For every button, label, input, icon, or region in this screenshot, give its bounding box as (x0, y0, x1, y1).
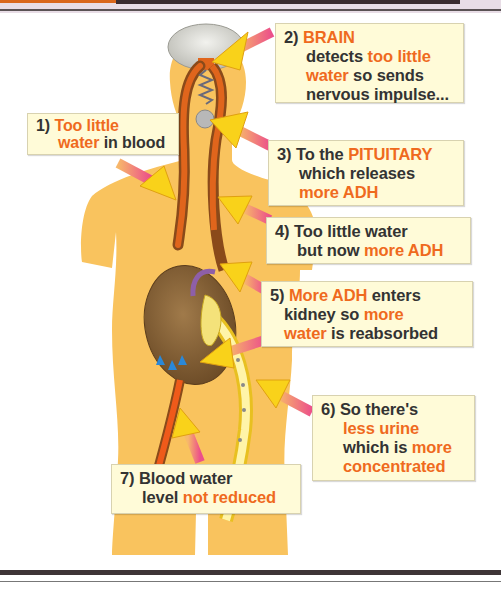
step-text: Too little water (294, 222, 408, 240)
highlight-text: BRAIN (303, 28, 355, 46)
step-text: level (142, 488, 183, 506)
highlight-text: More ADH (289, 286, 367, 304)
step-5-box: 5) More ADH enters kidney so more water … (261, 281, 473, 347)
highlight-text: Too little (54, 117, 118, 134)
step-text: so sends (349, 66, 424, 84)
step-number: 5) (270, 286, 284, 304)
step-text: but now (297, 241, 364, 259)
step-text: detects (306, 47, 368, 65)
step-1-box: 1) Too little water in blood (27, 113, 179, 155)
highlight-text: more ADH (299, 183, 378, 201)
highlight-text: more ADH (364, 241, 443, 259)
step-number: 1) (36, 117, 50, 134)
step-number: 2) (284, 28, 298, 46)
footer-rule-thin (0, 581, 501, 582)
step-text: enters (367, 286, 420, 304)
highlight-text: too little (368, 47, 431, 65)
highlight-text: water (58, 134, 99, 151)
highlight-text: water (284, 324, 327, 342)
step-3-box: 3) To the PITUITARY which releases more … (268, 140, 464, 206)
step-2-box: 2) BRAIN detects too little water so sen… (275, 23, 464, 103)
step-text: which releases (299, 164, 415, 182)
pituitary (196, 110, 214, 128)
footer-rule (0, 570, 501, 575)
step-text: So there's (340, 400, 418, 418)
step-number: 7) (120, 469, 134, 487)
step-number: 4) (275, 222, 289, 240)
highlight-text: more (364, 305, 404, 323)
step-text: To the (296, 145, 348, 163)
highlight-text: less urine (343, 419, 419, 437)
step-text: nervous impulse... (306, 85, 449, 103)
highlight-text: more (412, 438, 452, 456)
step-text: in blood (99, 134, 165, 151)
step-4-box: 4) Too little water but now more ADH (266, 217, 471, 264)
step-number: 3) (277, 145, 291, 163)
highlight-text: concentrated (343, 457, 445, 475)
step-6-box: 6) So there's less urine which is more c… (312, 395, 475, 481)
step-7-box: 7) Blood water level not reduced (111, 464, 301, 514)
highlight-text: not reduced (183, 488, 276, 506)
step-text: Blood water (139, 469, 232, 487)
step-text: which is (343, 438, 412, 456)
highlight-text: PITUITARY (348, 145, 432, 163)
step-text: is reabsorbed (327, 324, 438, 342)
highlight-text: water (306, 66, 349, 84)
step-number: 6) (321, 400, 335, 418)
step-text: kidney so (284, 305, 364, 323)
